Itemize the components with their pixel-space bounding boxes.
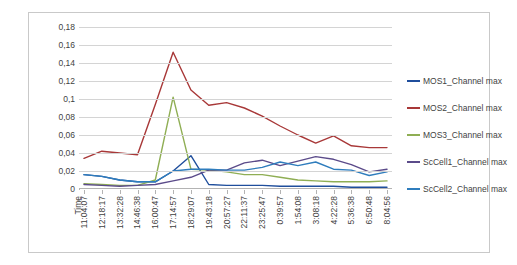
legend-item[interactable]: MOS3_Channel max xyxy=(407,129,502,141)
legend-item[interactable]: MOS2_Channel max xyxy=(407,102,502,114)
plot-area-wrapper: 00,020,040,060,080,10,120,140,160,18 Tim… xyxy=(29,13,401,254)
chart-legend: MOS1_Channel maxMOS2_Channel maxMOS3_Cha… xyxy=(407,13,491,254)
chart-container: 00,020,040,060,080,10,120,140,160,18 Tim… xyxy=(28,12,490,253)
legend-item-label: ScCell2_Channel max xyxy=(423,184,507,194)
x-axis-tick xyxy=(155,190,156,194)
series-line xyxy=(84,52,387,158)
legend-item-label: MOS3_Channel max xyxy=(423,130,502,140)
y-axis-tick-label: 0 xyxy=(33,185,75,193)
legend-item[interactable]: MOS1_Channel max xyxy=(407,75,502,87)
series-line xyxy=(84,97,387,185)
gridline xyxy=(79,135,392,136)
x-axis-baseline xyxy=(79,188,392,189)
x-axis-tick-label: 22:11:37 xyxy=(239,196,249,228)
x-axis-tick xyxy=(387,190,388,194)
x-axis-tick-label: 20:57:27 xyxy=(222,196,232,229)
x-axis-ticks xyxy=(79,190,392,195)
x-axis-tick-label: 16:00:47 xyxy=(150,196,160,229)
x-axis-tick-labels: Time11:04:0712:18:1713:32:2814:46:3816:0… xyxy=(79,196,392,252)
legend-color-swatch xyxy=(407,107,420,109)
legend-color-swatch xyxy=(407,134,420,136)
x-axis-tick-label: 0:39:57 xyxy=(275,196,285,224)
x-axis-tick-label: 11:04:07 xyxy=(79,196,89,228)
y-axis-tick-label: 0,04 xyxy=(33,149,75,157)
y-axis-tick-label: 0,12 xyxy=(33,77,75,85)
x-axis-tick xyxy=(244,190,245,194)
x-axis-tick-label: 5:36:38 xyxy=(346,196,356,224)
y-axis-tick-label: 0,06 xyxy=(33,131,75,139)
y-axis-tick-label: 0,16 xyxy=(33,41,75,49)
x-axis-tick xyxy=(102,190,103,194)
x-axis-tick xyxy=(334,190,335,194)
x-axis-tick-label: 14:46:38 xyxy=(132,196,142,229)
x-axis-tick xyxy=(173,190,174,194)
legend-item[interactable]: ScCell2_Channel max xyxy=(407,183,507,195)
legend-item-label: MOS1_Channel max xyxy=(423,76,502,86)
x-axis-tick-label: 3:08:18 xyxy=(311,196,321,224)
y-axis-tick-label: 0,14 xyxy=(33,59,75,67)
x-axis-tick-label: 19:43:18 xyxy=(204,196,214,229)
gridline xyxy=(79,81,392,82)
x-axis-tick xyxy=(351,190,352,194)
gridline xyxy=(79,153,392,154)
x-axis-tick-label: 18:29:07 xyxy=(186,196,196,229)
x-axis-tick-label: 12:18:17 xyxy=(97,196,107,229)
x-axis-tick-label: 8:04:56 xyxy=(382,196,392,224)
x-axis-tick xyxy=(209,190,210,194)
y-axis-tick-labels: 00,020,040,060,080,10,120,140,160,18 xyxy=(31,13,75,254)
legend-color-swatch xyxy=(407,161,420,163)
gridline xyxy=(79,117,392,118)
gridline xyxy=(79,171,392,172)
x-axis-tick-label: 17:14:57 xyxy=(168,196,178,229)
x-axis-tick-label: 6:50:48 xyxy=(364,196,374,224)
x-axis-tick xyxy=(227,190,228,194)
x-axis-tick-label: 1:54:08 xyxy=(293,196,303,224)
x-axis-tick xyxy=(84,190,85,194)
y-axis-tick-label: 0,08 xyxy=(33,113,75,121)
legend-color-swatch xyxy=(407,80,420,82)
x-axis-tick-label: 23:25:47 xyxy=(257,196,267,229)
x-axis-tick-label: 4:22:28 xyxy=(329,196,339,224)
legend-item-label: MOS2_Channel max xyxy=(423,103,502,113)
x-axis-tick xyxy=(262,190,263,194)
gridline xyxy=(79,45,392,46)
x-axis-tick xyxy=(191,190,192,194)
x-axis-tick xyxy=(369,190,370,194)
series-lines xyxy=(79,27,392,189)
legend-item-label: ScCell1_Channel max xyxy=(423,157,507,167)
gridline xyxy=(79,63,392,64)
x-axis-tick xyxy=(298,190,299,194)
gridline xyxy=(79,99,392,100)
gridline xyxy=(79,27,392,28)
plot-area xyxy=(79,27,392,189)
legend-item[interactable]: ScCell1_Channel max xyxy=(407,156,507,168)
y-axis-tick-label: 0,1 xyxy=(33,95,75,103)
x-axis-tick xyxy=(316,190,317,194)
x-axis-tick xyxy=(138,190,139,194)
y-axis-tick-label: 0,18 xyxy=(33,23,75,31)
x-axis-tick xyxy=(120,190,121,194)
x-axis-tick-label: 13:32:28 xyxy=(115,196,125,229)
legend-color-swatch xyxy=(407,188,420,190)
y-axis-tick-label: 0,02 xyxy=(33,167,75,175)
x-axis-tick xyxy=(280,190,281,194)
